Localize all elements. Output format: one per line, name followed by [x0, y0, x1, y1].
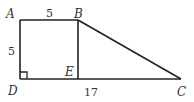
segment-bc: [78, 20, 181, 79]
label-c: C: [177, 85, 186, 99]
label-e: E: [64, 65, 74, 79]
label-d: D: [7, 84, 18, 98]
right-angle-marker-icon: [20, 72, 27, 79]
trapezoid-diagram: A B C D E 5 5 17: [0, 0, 194, 102]
measure-dc: 17: [84, 86, 98, 99]
label-b: B: [73, 7, 83, 21]
measure-ab: 5: [46, 7, 53, 20]
measure-ad: 5: [8, 45, 15, 58]
label-a: A: [5, 7, 15, 21]
